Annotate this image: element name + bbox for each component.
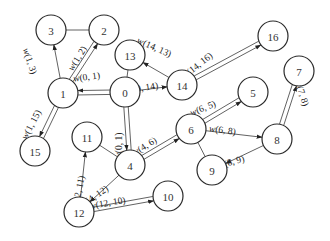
node-10: 10 [153,181,183,211]
node-label: 7 [296,66,302,78]
node-14: 14 [167,70,197,100]
node-label: 9 [209,165,215,177]
node-7: 7 [284,56,314,86]
node-3: 3 [36,15,66,45]
node-label: 8 [274,134,280,146]
edge-14-13 [143,62,169,77]
graph-diagram: w(1, 3)w(1, 2)w(0, 1)w(1, 15)w(0, 14)w(1… [0,0,330,241]
node-label: 5 [250,87,256,99]
node-label: 6 [188,124,194,136]
node-2: 2 [89,15,119,45]
node-8: 8 [262,124,292,154]
node-5: 5 [238,77,268,107]
node-11: 11 [72,122,102,152]
node-label: 3 [48,25,54,37]
node-1: 1 [48,78,78,108]
node-4: 4 [115,150,145,180]
node-label: 10 [163,191,175,203]
node-13: 13 [115,40,145,70]
node-label: 14 [177,80,189,92]
edge-weight-label: w(1, 3) [20,47,39,76]
edge-weight-label: w(1, 2) [66,44,90,73]
node-15: 15 [20,136,50,166]
node-0: 0 [110,77,140,107]
node-12: 12 [64,197,94,227]
edge-0-13 [127,70,128,77]
node-16: 16 [258,21,288,51]
node-label: 4 [127,160,133,172]
node-label: 2 [101,25,107,37]
edge-1-15 [40,106,59,139]
node-label: 12 [74,207,85,219]
node-9: 9 [197,155,227,185]
node-label: 11 [82,132,93,144]
edge-6-9 [198,142,205,156]
edge-weight-label: w(6, 8) [208,123,236,138]
edge-8-7 [280,85,297,126]
edge-0-1 [78,90,110,95]
node-6: 6 [176,114,206,144]
edge-weight-label: w(0, 1) [73,70,101,85]
node-label: 13 [125,50,137,62]
node-label: 16 [268,31,280,43]
edge-0-4 [124,107,131,150]
node-label: 1 [60,88,66,100]
node-label: 0 [122,87,128,99]
edge-1-3 [54,45,60,79]
node-label: 15 [30,146,42,158]
